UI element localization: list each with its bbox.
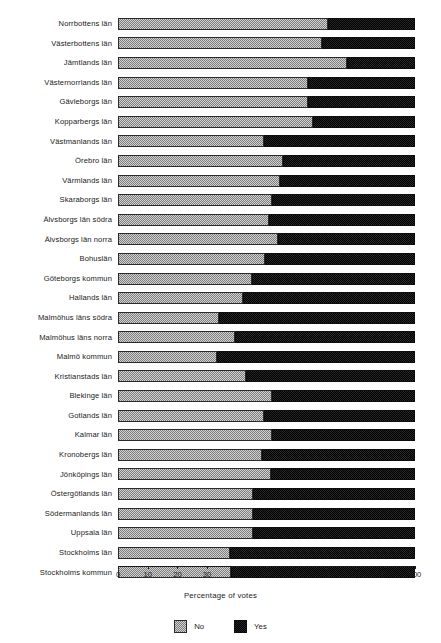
bar-segment-no [118, 370, 246, 382]
bar-segment-no [118, 233, 278, 245]
bar-segment-yes [308, 77, 415, 89]
bar-segment-yes [272, 429, 415, 441]
category-label: Södermanlands län [0, 510, 118, 518]
stacked-bar [118, 233, 415, 245]
category-label: Skaraborgs län [0, 196, 118, 204]
x-axis-label: Percentage of votes [0, 591, 441, 600]
chart-row: Stockholms län [0, 543, 441, 563]
stacked-bar [118, 18, 415, 30]
bar-segment-yes [246, 370, 415, 382]
bar-segment-yes [230, 547, 415, 559]
stacked-bar [118, 175, 415, 187]
bar-segment-yes [278, 233, 415, 245]
category-label: Älvsborgs län södra [0, 216, 118, 224]
category-label: Gotlands län [0, 412, 118, 420]
category-label: Malmöhus läns norra [0, 334, 118, 342]
x-axis-tick-label: 90 [381, 571, 389, 579]
bar-segment-no [118, 214, 269, 226]
bar-segment-no [118, 449, 262, 461]
category-label: Uppsala län [0, 529, 118, 537]
category-label: Västernorrlands län [0, 79, 118, 87]
chart-row: Gävleborgs län [0, 92, 441, 112]
bar-segment-no [118, 508, 253, 520]
bar-segment-no [118, 527, 253, 539]
checkered-gray-swatch-icon [174, 620, 187, 633]
bar-segment-no [118, 135, 264, 147]
x-axis: 0102030405060708090100 [118, 566, 415, 567]
stacked-bar [118, 547, 415, 559]
bar-segment-no [118, 77, 308, 89]
chart-row: Malmöhus läns norra [0, 328, 441, 348]
bar-segment-yes [264, 410, 415, 422]
x-axis-tick [148, 566, 149, 569]
bar-segment-no [118, 175, 280, 187]
stacked-bar [118, 508, 415, 520]
chart-row: Västerbottens län [0, 34, 441, 54]
stacked-bar [118, 351, 415, 363]
category-label: Stockholms kommun [0, 569, 118, 577]
category-label: Jämtlands län [0, 59, 118, 67]
stacked-bar [118, 96, 415, 108]
chart-row: Hallands län [0, 288, 441, 308]
bar-segment-no [118, 468, 271, 480]
stacked-bar [118, 135, 415, 147]
stacked-bar [118, 370, 415, 382]
chart-row: Norrbottens län [0, 14, 441, 34]
x-axis-tick [237, 566, 238, 569]
stacked-bar [118, 410, 415, 422]
stacked-bar [118, 253, 415, 265]
category-label: Västerbottens län [0, 40, 118, 48]
legend-label-no: No [194, 623, 204, 631]
category-label: Blekinge län [0, 392, 118, 400]
chart-row: Jämtlands län [0, 53, 441, 73]
chart-row: Jönköpings län [0, 465, 441, 485]
stacked-bar [118, 331, 415, 343]
bar-segment-yes [308, 96, 415, 108]
x-axis-tick [207, 566, 208, 569]
category-label: Göteborgs kommun [0, 275, 118, 283]
category-label: Kristianstads län [0, 373, 118, 381]
bar-segment-no [118, 273, 252, 285]
bar-segment-yes [235, 331, 415, 343]
stacked-bar [118, 77, 415, 89]
chart-row: Skaraborgs län [0, 190, 441, 210]
stacked-bar [118, 116, 415, 128]
bar-segment-yes [280, 175, 415, 187]
stacked-bar [118, 488, 415, 500]
bar-segment-yes [243, 292, 415, 304]
chart-row: Kalmar län [0, 425, 441, 445]
bar-segment-yes [272, 194, 415, 206]
bar-segment-no [118, 155, 283, 167]
bar-segment-yes [262, 449, 415, 461]
stacked-bar [118, 429, 415, 441]
bar-segment-no [118, 410, 264, 422]
chart-legend: No Yes [0, 620, 441, 633]
stacked-bar [118, 449, 415, 461]
x-axis-tick [118, 566, 119, 569]
bar-segment-no [118, 37, 322, 49]
x-axis-tick-label: 0 [116, 571, 120, 579]
bar-segment-yes [269, 214, 415, 226]
bar-segment-yes [283, 155, 415, 167]
bar-segment-no [118, 390, 272, 402]
stacked-bar [118, 155, 415, 167]
chart-row: Blekinge län [0, 386, 441, 406]
chart-row: Bohuslän [0, 249, 441, 269]
bar-segment-no [118, 57, 347, 69]
x-axis-tick [267, 566, 268, 569]
bar-segment-yes [252, 273, 415, 285]
bar-segment-no [118, 488, 253, 500]
chart-row: Uppsala län [0, 523, 441, 543]
stacked-bar [118, 37, 415, 49]
stacked-bar [118, 527, 415, 539]
chart-row: Kronobergs län [0, 445, 441, 465]
solid-black-swatch-icon [234, 620, 247, 633]
bar-segment-no [118, 18, 328, 30]
bar-segment-yes [253, 488, 415, 500]
x-axis-tick-label: 50 [262, 571, 270, 579]
stacked-bar-chart: Norrbottens länVästerbottens länJämtland… [0, 0, 441, 643]
bar-segment-yes [217, 351, 415, 363]
category-label: Hallands län [0, 294, 118, 302]
category-label: Västmanlands län [0, 138, 118, 146]
x-axis-tick-label: 20 [173, 571, 181, 579]
